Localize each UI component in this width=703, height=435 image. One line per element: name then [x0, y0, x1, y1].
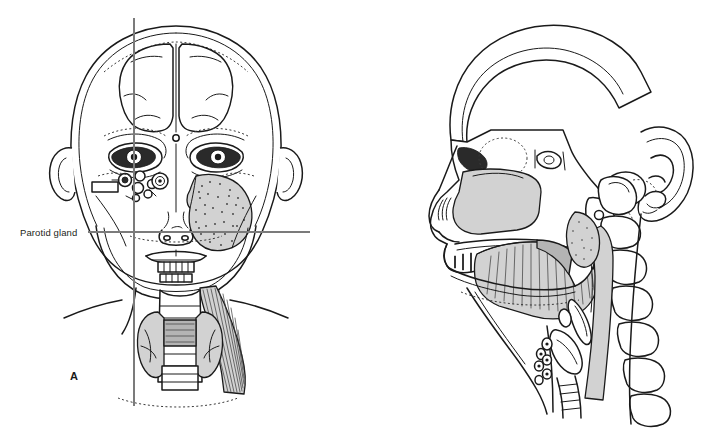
chest-dotted-contour — [118, 398, 238, 407]
panel-a-artwork — [0, 0, 352, 435]
figure-root: Parotid gland A — [0, 0, 703, 435]
auricle-left — [50, 148, 75, 201]
teeth — [158, 262, 194, 282]
crosshair-vertical-a — [133, 18, 135, 406]
crosshair-horizontal-a — [88, 231, 310, 233]
panel-b-artwork — [351, 0, 703, 435]
trachea-lower — [162, 366, 198, 390]
panel-label-a: A — [70, 370, 78, 382]
sphenoid-maxillary-sinus — [453, 169, 541, 234]
frontal-sinus — [119, 44, 232, 132]
trachea-b — [557, 376, 581, 418]
auricle-right — [277, 148, 302, 201]
nasion — [173, 135, 179, 141]
lymph-node-cluster — [535, 338, 553, 385]
panel-a: Parotid gland A — [0, 0, 352, 435]
shoulder-left — [64, 300, 122, 318]
larynx — [550, 330, 582, 374]
auricle-b — [638, 127, 693, 221]
panel-b: Parotid gland B — [351, 0, 703, 435]
shoulder-right — [230, 300, 288, 318]
calvarium — [450, 25, 651, 142]
parotid-gland-label-a: Parotid gland — [20, 227, 77, 238]
